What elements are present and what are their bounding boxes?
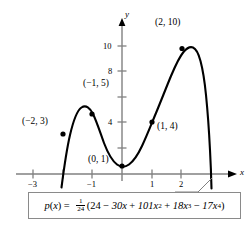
equation-term-2-sign: − [103,200,109,211]
point-0-1 [119,163,124,168]
equation-close-paren: ) [221,200,225,211]
x-tick-label-2: 2 [179,180,183,189]
polynomial-graph-figure: x y −3 −1 1 2 10 8 4 (−2, 3) (−1, 5) (0,… [0,0,249,232]
equation-term-1: 24 [90,200,101,211]
fraction-denominator: 24 [76,205,85,213]
equation-close-paren-fn: ) [58,200,62,211]
fraction-numerator: 1 [78,198,84,205]
point-2-10 [179,46,184,51]
point-label-1-4: (1, 4) [157,122,178,132]
equation-box: p(x)= 1 24 (24−30x+101x2+18x3−17x4) [28,192,241,219]
polynomial-curve [62,47,212,188]
equation-equals: = [64,200,70,211]
y-axis-label: y [125,10,129,19]
equation-term-4: 18x [173,200,188,211]
x-tick-label--1: −1 [87,180,96,189]
x-axis-label: x [240,168,244,177]
equation-term-5-sign: − [194,200,200,211]
equation-term-5: 17x [202,200,217,211]
y-tick-label-10: 10 [103,42,112,51]
polynomial-equation: p(x)= 1 24 (24−30x+101x2+18x3−17x4) [44,198,224,214]
x-tick-label--3: −3 [28,180,37,189]
point-label-0-1: (0, 1) [88,155,109,165]
y-axis-arrow [119,18,126,26]
x-axis-arrow [228,171,237,178]
equation-fraction: 1 24 [76,198,85,214]
point-label--2-3: (−2, 3) [22,117,48,127]
point--1-5 [89,111,94,116]
equation-term-3: 101x [138,200,158,211]
point--2-3 [60,131,65,136]
y-tick-label-4: 4 [108,118,112,127]
point-label-2-10: (2, 10) [155,18,180,28]
equation-term-3-sign: + [129,200,135,211]
y-tick-label-8: 8 [108,67,112,76]
point-label--1-5: (−1, 5) [83,79,109,89]
equation-term-4-sign: + [164,200,170,211]
equation-term-2: 30x [112,200,127,211]
x-tick-label-1: 1 [150,180,154,189]
point-1-4 [149,119,154,124]
